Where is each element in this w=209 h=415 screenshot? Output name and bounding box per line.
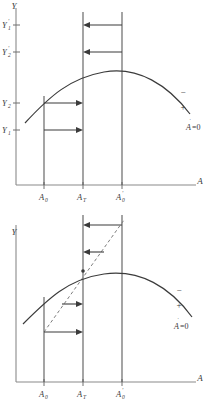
minus-sign-label: − (176, 285, 181, 295)
svg-text:A: A (115, 192, 122, 202)
x-tick-label-a0: A 0 (38, 192, 48, 203)
panel-bottom-svg: Y A A 0 A T A 0 ′ − + A ˙ =0 (0, 207, 209, 415)
x-tick-label-a0: A 0 (38, 389, 48, 400)
production-curve (25, 71, 190, 123)
svg-text:0: 0 (45, 197, 48, 203)
svg-text:1: 1 (8, 25, 11, 31)
arrow-left-2 (83, 49, 122, 55)
svg-text:0: 0 (45, 394, 48, 400)
svg-text:′: ′ (8, 45, 10, 51)
panel-top-svg: Y A Y 1 ′ Y 2 ′ Y 2 Y 1 A (0, 0, 209, 208)
svg-text:′: ′ (122, 387, 124, 393)
x-axis-label: A (196, 373, 203, 383)
svg-text:′: ′ (8, 18, 10, 24)
intersection-point-marker (81, 269, 85, 273)
y-tick-label-y2: Y 2 (2, 98, 11, 109)
svg-text:′: ′ (122, 190, 124, 196)
x-tick-label-at: A T (76, 192, 87, 203)
x-tick-label-at: A T (76, 389, 87, 400)
svg-text:A: A (38, 192, 45, 202)
y-tick-label-y1: Y 1 (2, 125, 11, 136)
svg-text:T: T (83, 197, 87, 203)
arrow-left-1 (83, 222, 122, 228)
svg-text:A: A (76, 192, 83, 202)
svg-text:T: T (83, 394, 87, 400)
panel-bottom: Y A A 0 A T A 0 ′ − + A ˙ =0 (0, 207, 209, 415)
figure-container: Y A Y 1 ′ Y 2 ′ Y 2 Y 1 A (0, 0, 209, 415)
x-tick-label-a0prime: A 0 ′ (115, 387, 125, 400)
y-tick-label-y1prime: Y 1 ′ (2, 18, 11, 31)
svg-text:=0: =0 (192, 123, 201, 132)
y-axis-label: Y (11, 1, 17, 11)
svg-text:0: 0 (122, 197, 125, 203)
svg-text:0: 0 (122, 394, 125, 400)
arrow-right-2 (44, 127, 83, 133)
svg-text:˙: ˙ (189, 117, 191, 125)
production-curve (23, 273, 192, 324)
y-axis-label: Y (11, 227, 17, 237)
svg-text:2: 2 (8, 52, 11, 58)
panel-top: Y A Y 1 ′ Y 2 ′ Y 2 Y 1 A (0, 0, 209, 208)
adot-equals-zero-label: A ˙ =0 (173, 316, 189, 331)
plus-sign-label: + (180, 102, 185, 112)
adot-equals-zero-label: A ˙ =0 (185, 117, 201, 132)
plus-sign-label: + (176, 300, 181, 310)
dashed-diagonal-line (44, 220, 124, 332)
svg-text:A: A (38, 389, 45, 399)
svg-text:A: A (76, 389, 83, 399)
x-axis-label: A (196, 176, 203, 186)
arrow-left-1 (83, 22, 122, 28)
svg-text:2: 2 (8, 103, 11, 109)
svg-text:˙: ˙ (177, 316, 179, 324)
svg-text:A: A (115, 389, 122, 399)
svg-text:=0: =0 (180, 322, 189, 331)
arrow-right-2 (44, 329, 83, 335)
x-tick-label-a0prime: A 0 ′ (115, 190, 125, 203)
arrow-left-2 (83, 249, 104, 255)
minus-sign-label: − (180, 87, 185, 97)
arrow-right-1 (44, 100, 83, 106)
svg-text:1: 1 (8, 130, 11, 136)
y-tick-label-y2prime: Y 2 ′ (2, 45, 11, 58)
